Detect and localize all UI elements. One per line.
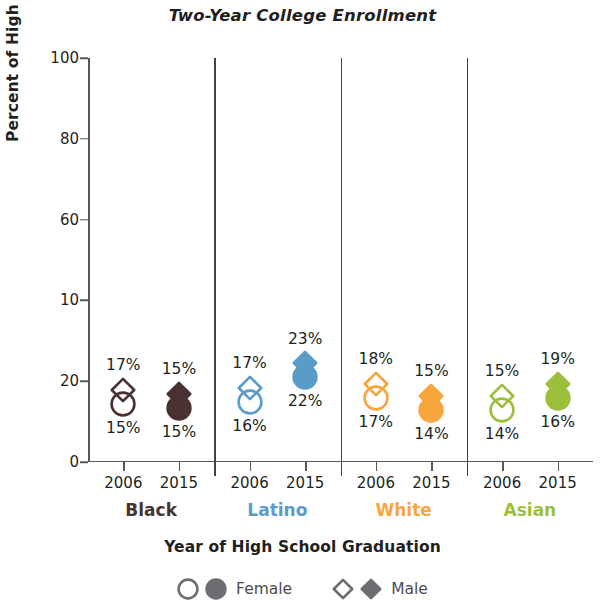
x-tick-mark: [305, 462, 307, 471]
x-tick-mark: [431, 462, 433, 471]
x-axis-label: Year of High School Graduation: [0, 538, 605, 556]
x-tick-label-year: 2015: [412, 474, 450, 492]
x-tick-mark: [376, 462, 378, 471]
male-diamond-marker: [292, 350, 318, 376]
marker-stack: [510, 369, 605, 413]
chart-figure: Two-Year College Enrollment Percent of H…: [0, 0, 605, 610]
x-tick-label-year: 2015: [539, 474, 577, 492]
diamond-filled-icon: [360, 578, 382, 600]
diamond-open-icon: [332, 578, 354, 600]
data-point-group: 19%16%: [510, 351, 605, 430]
x-tick-label-year: 2006: [357, 474, 395, 492]
x-tick-mark: [123, 462, 125, 471]
x-tick-label-year: 2006: [104, 474, 142, 492]
female-value-label: 16%: [202, 418, 298, 434]
chart-title: Two-Year College Enrollment: [0, 6, 605, 25]
x-tick-label-year: 2006: [483, 474, 521, 492]
y-tick-label: 10: [60, 291, 79, 309]
male-diamond-marker: [166, 381, 192, 407]
male-diamond-marker: [418, 383, 444, 409]
group-label-black: Black: [125, 500, 177, 520]
chart-legend: FemaleMale: [0, 578, 605, 600]
x-tick-mark: [250, 462, 252, 471]
y-tick-label: 0: [69, 453, 79, 471]
y-tick-label: 80: [60, 130, 79, 148]
y-axis-label-wrapper: Percent of High School Graduates: [6, 58, 26, 462]
plot-area: 020106080100 17%15%15%15%17%16%23%22%18%…: [88, 58, 593, 462]
x-tick-mark: [558, 462, 560, 471]
y-axis-label: Percent of High School Graduates: [4, 0, 22, 142]
y-tick-mark: [80, 300, 88, 302]
circle-filled-icon: [205, 578, 227, 600]
circle-open-icon: [177, 578, 199, 600]
group-label-white: White: [375, 500, 431, 520]
x-tick-mark: [502, 462, 504, 471]
x-tick-label-year: 2015: [160, 474, 198, 492]
x-tick-label-year: 2015: [286, 474, 324, 492]
y-tick-label: 100: [50, 49, 79, 67]
x-tick-mark: [179, 462, 181, 471]
y-tick-label: 60: [60, 211, 79, 229]
group-label-latino: Latino: [247, 500, 307, 520]
legend-label: Female: [236, 580, 292, 598]
y-tick-mark: [80, 461, 88, 463]
x-tick-label-year: 2006: [231, 474, 269, 492]
y-tick-mark: [80, 57, 88, 59]
y-tick-mark: [80, 219, 88, 221]
male-value-label: 19%: [510, 351, 605, 367]
legend-entry-female: Female: [177, 578, 292, 600]
male-value-label: 23%: [257, 331, 353, 347]
legend-entry-male: Male: [332, 578, 428, 600]
group-label-asian: Asian: [504, 500, 557, 520]
legend-label: Male: [391, 580, 428, 598]
y-tick-mark: [80, 138, 88, 140]
female-value-label: 16%: [510, 414, 605, 430]
male-diamond-marker: [545, 371, 571, 397]
